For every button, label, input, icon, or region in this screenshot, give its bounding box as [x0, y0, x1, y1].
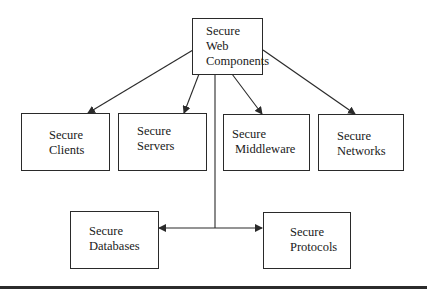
node-secure-databases: Secure Databases [70, 211, 159, 269]
edge-web-servers [184, 74, 199, 113]
node-label-line: Secure [337, 129, 386, 144]
node-secure-networks: Secure Networks [318, 114, 404, 171]
node-label-line: Secure [89, 224, 140, 239]
node-secure-clients: Secure Clients [21, 113, 110, 171]
edge-web-networks [263, 50, 355, 114]
node-label-line: Networks [337, 144, 386, 159]
edge-web-clients [88, 50, 193, 113]
bottom-divider [0, 286, 427, 289]
edge-web-middleware [232, 74, 262, 114]
node-secure-protocols: Secure Protocols [263, 212, 351, 269]
node-label-line: Components [206, 54, 269, 69]
node-label-line: Secure [206, 24, 269, 39]
node-label-line: Middleware [232, 142, 295, 157]
node-secure-middleware: Secure Middleware [223, 114, 310, 171]
node-label-line: Secure [137, 124, 175, 139]
node-label-line: Servers [137, 139, 175, 154]
node-label-line: Databases [89, 239, 140, 254]
node-secure-web-components: Secure Web Components [192, 18, 263, 75]
node-label-line: Secure [290, 225, 337, 240]
node-secure-servers: Secure Servers [118, 113, 207, 171]
node-label-line: Clients [49, 143, 84, 158]
node-label-line: Protocols [290, 240, 337, 255]
node-label-line: Secure [49, 128, 84, 143]
node-label-line: Secure [232, 127, 295, 142]
node-label-line: Web [206, 39, 269, 54]
